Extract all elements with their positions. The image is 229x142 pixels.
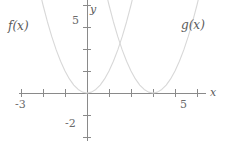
curve-gx xyxy=(101,0,204,93)
y-tick-label-neg2: -2 xyxy=(65,118,76,129)
x-tick-label-5: 5 xyxy=(180,99,187,110)
y-tick-label-5: 5 xyxy=(72,15,79,26)
parabola-graph-figure: f(x) g(x) x y -3 5 5 -2 xyxy=(0,0,229,142)
x-axis-label: x xyxy=(210,87,216,98)
x-tick-label-neg3: -3 xyxy=(15,99,26,110)
curve-label-fx: f(x) xyxy=(8,20,29,32)
y-axis-label: y xyxy=(90,4,96,15)
curve-label-gx: g(x) xyxy=(181,19,205,31)
curves-group xyxy=(35,0,204,93)
